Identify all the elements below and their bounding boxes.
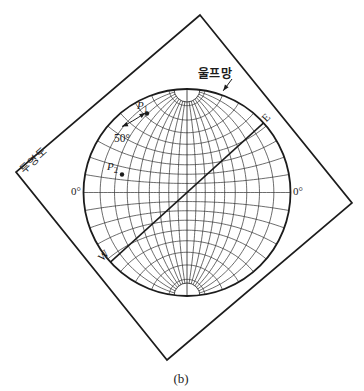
stereonet-figure: 울프망 투영도 E W 0° 0° 50° P1 P2 (b) <box>0 0 364 391</box>
zero-degree-left-label: 0° <box>71 185 81 197</box>
angle-arc-arrowhead-lower <box>122 122 128 127</box>
angle-50-label: 50° <box>114 132 131 144</box>
east-label: E <box>259 110 272 123</box>
p2-dot <box>120 172 124 176</box>
zero-degree-right-label: 0° <box>293 185 303 197</box>
wulff-net-label: 울프망 <box>198 67 233 81</box>
p2-label: P2 <box>106 160 118 175</box>
wulff-pointer-arrowhead <box>223 85 228 91</box>
figure-caption: (b) <box>173 371 188 386</box>
p1-label: P1 <box>136 99 148 114</box>
projection-plane-label: 투영도 <box>18 145 49 175</box>
figure-canvas: 울프망 투영도 E W 0° 0° 50° P1 P2 (b) <box>0 0 364 391</box>
